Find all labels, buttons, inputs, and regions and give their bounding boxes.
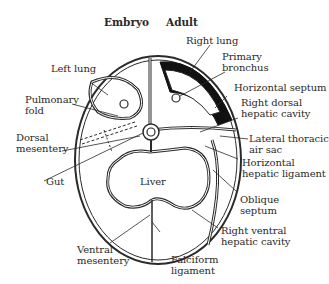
header-embryo: Embryo	[104, 16, 149, 28]
gut	[143, 124, 159, 140]
label-liver: Liver	[140, 176, 166, 187]
label-gut: Gut	[46, 176, 64, 187]
label-pulmonary-fold: Pulmonary fold	[25, 94, 79, 116]
label-horizontal-septum: Horizontal septum	[234, 82, 327, 93]
header-adult: Adult	[166, 16, 198, 28]
label-falciform-ligament: Falciform ligament	[171, 254, 218, 276]
label-right-ventral-hepatic-cavity: Right ventral hepatic cavity	[221, 225, 290, 247]
label-ventral-mesentery: Ventral mesentery	[77, 244, 129, 266]
label-primary-bronchus: Primary bronchus	[222, 51, 268, 73]
label-horizontal-hepatic-ligament: Horizontal hepatic ligament	[242, 157, 326, 179]
label-oblique-septum: Oblique septum	[240, 194, 279, 216]
label-right-lung: Right lung	[186, 35, 238, 46]
label-right-dorsal-hepatic-cavity: Right dorsal hepatic cavity	[241, 97, 310, 119]
label-lateral-thoracic-air-sac: Lateral thoracic air sac	[249, 133, 329, 155]
label-left-lung: Left lung	[51, 63, 96, 74]
label-dorsal-mesentery: Dorsal mesentery	[16, 132, 68, 154]
